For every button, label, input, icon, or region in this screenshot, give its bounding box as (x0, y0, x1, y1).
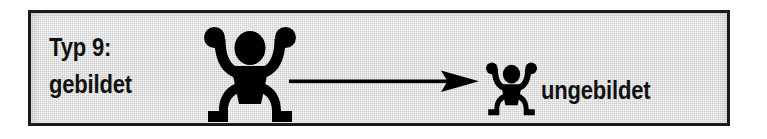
type-label-line-1: Typ 9: (49, 29, 132, 66)
arrow-right-icon (289, 68, 479, 96)
person-arms-raised-icon-small (481, 59, 542, 116)
type-label: Typ 9: gebildet (49, 29, 132, 103)
right-label: ungebildet (541, 75, 650, 105)
diagram-panel: Typ 9: gebildet (28, 10, 730, 126)
type-label-line-2: gebildet (49, 66, 132, 103)
